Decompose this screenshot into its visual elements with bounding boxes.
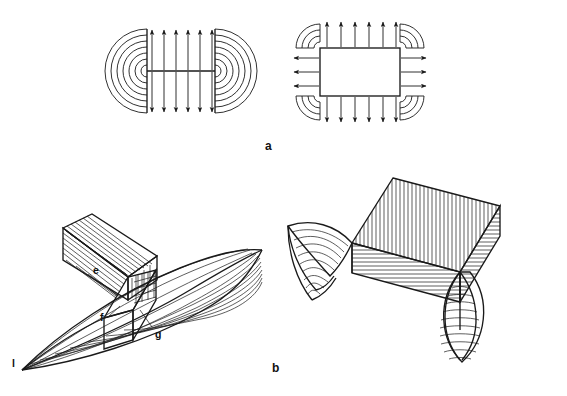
panel-label-b: b xyxy=(272,361,279,375)
corner-arc-fan-bottom-right xyxy=(400,96,424,120)
label-l: l xyxy=(12,357,15,369)
right-arc-fan xyxy=(215,29,257,113)
slab-top-hatching xyxy=(356,170,496,310)
panel-b-right-construction xyxy=(288,170,510,362)
left-fan-surface xyxy=(288,223,352,300)
figure-svg: a xyxy=(0,0,567,396)
bottom-fan-surface xyxy=(440,272,484,362)
panel-label-a: a xyxy=(265,139,272,153)
rect-arrows-bottom xyxy=(327,97,396,122)
panel-a-right-field-diagram xyxy=(294,22,426,122)
corner-arc-fan-bottom-left xyxy=(296,96,320,120)
rect-arrows-right xyxy=(401,58,426,86)
foot-box xyxy=(104,270,156,349)
corner-arc-fan-top-left xyxy=(296,24,320,48)
label-e: e xyxy=(93,264,99,276)
field-arrows-down xyxy=(152,72,212,112)
label-g: g xyxy=(155,328,161,340)
rect-arrows-top xyxy=(327,22,396,47)
left-arc-fan xyxy=(105,29,147,113)
panel-a-left-field-diagram xyxy=(105,29,257,113)
caption-strip xyxy=(0,382,567,396)
label-f: f xyxy=(100,311,104,323)
panel-b-left-construction: e f g l xyxy=(12,214,262,370)
corner-arc-fan-top-right xyxy=(400,24,424,48)
slab-front-hatching xyxy=(340,246,470,298)
field-arrows-up xyxy=(152,30,212,70)
figure-root: a xyxy=(0,0,567,396)
slab-right-hatching xyxy=(452,210,510,298)
source-rectangle xyxy=(320,48,400,96)
hatched-prism xyxy=(63,214,157,300)
rect-arrows-left xyxy=(294,58,319,86)
